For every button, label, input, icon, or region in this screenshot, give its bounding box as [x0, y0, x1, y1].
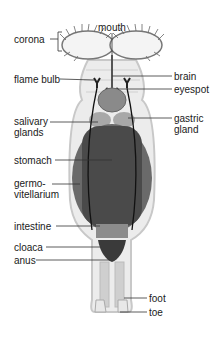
label-eyespot: eyespot	[174, 84, 209, 95]
label-stomach: stomach	[14, 155, 52, 166]
label-germovitellarium: germo- vitellarium	[14, 178, 59, 200]
label-intestine: intestine	[14, 221, 51, 232]
label-gastric-line1: gastric	[174, 113, 203, 124]
label-salivary-line2: glands	[14, 127, 43, 138]
label-flame-bulb: flame bulb	[14, 74, 60, 85]
label-germo-line2: vitellarium	[14, 189, 59, 200]
intestine-shape	[96, 224, 128, 238]
label-corona: corona	[14, 34, 45, 45]
stomach-shape	[82, 126, 142, 226]
label-salivary-glands: salivary glands	[14, 116, 48, 138]
label-salivary-line1: salivary	[14, 116, 48, 127]
label-toe: toe	[149, 307, 163, 318]
label-germo-line1: germo-	[14, 178, 46, 189]
label-brain: brain	[174, 71, 196, 82]
label-gastric-gland: gastric gland	[174, 113, 203, 135]
label-gastric-line2: gland	[174, 124, 198, 135]
label-anus: anus	[14, 255, 36, 266]
label-foot: foot	[149, 293, 166, 304]
label-mouth: mouth	[98, 22, 126, 33]
label-cloaca: cloaca	[14, 242, 43, 253]
mastax	[98, 88, 126, 112]
